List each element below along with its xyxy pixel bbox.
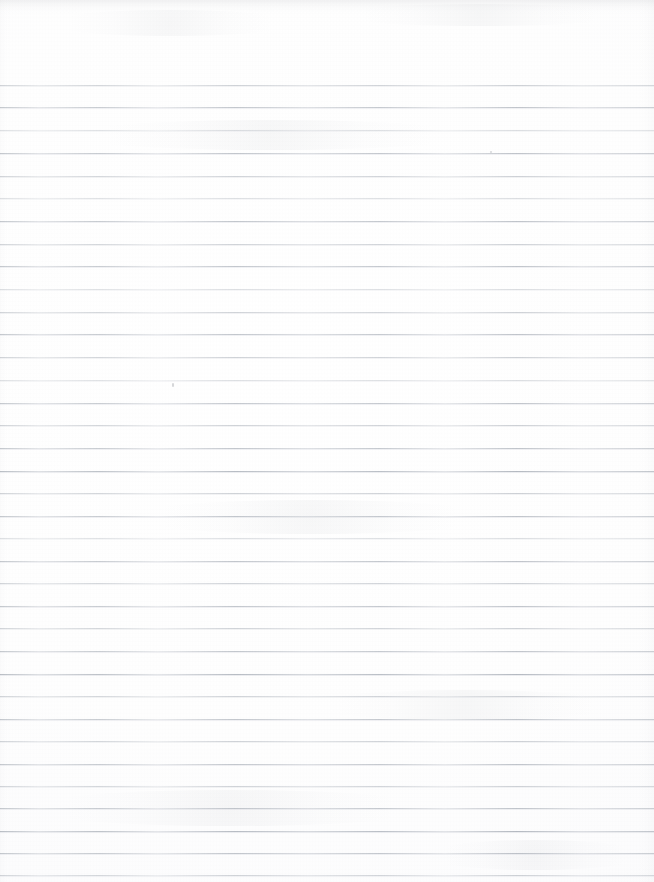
scanned-paper-page: [0, 0, 654, 882]
paper-sheet-background: [0, 0, 654, 882]
